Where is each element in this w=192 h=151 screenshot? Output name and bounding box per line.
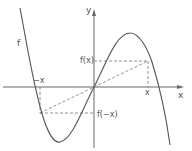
- y-axis-label: y: [86, 6, 91, 15]
- y-axis-arrow-icon: [92, 9, 96, 16]
- x-axis-label: x: [178, 91, 183, 100]
- x-tick-label: x: [145, 89, 150, 97]
- graph-canvas: [0, 0, 192, 151]
- neg-x-tick-label: −x: [33, 77, 44, 85]
- x-axis-arrow-icon: [177, 85, 184, 89]
- odd-function-diagram: f y x x −x f(x) f(−x): [0, 0, 192, 151]
- fx-label: f(x): [80, 57, 94, 65]
- f-neg-x-label: f(−x): [97, 111, 118, 119]
- function-label: f: [17, 39, 20, 48]
